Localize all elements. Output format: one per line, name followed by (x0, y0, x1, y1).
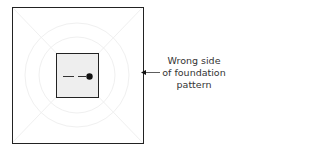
dot-marker (86, 73, 92, 79)
annotation-line-1: Wrong side (152, 55, 236, 67)
annotation-line-3: pattern (152, 79, 236, 91)
annotation-line-2: of foundation (152, 67, 236, 79)
annotation-label: Wrong side of foundation pattern (152, 55, 236, 91)
